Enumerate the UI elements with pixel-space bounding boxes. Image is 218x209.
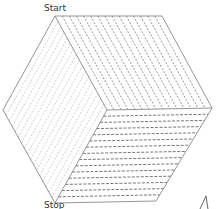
- start-label: Start: [44, 4, 66, 13]
- hexagon-outline: [3, 16, 212, 203]
- bottom-right-face-hatch: [58, 114, 208, 197]
- stop-label: Stop: [44, 201, 64, 209]
- hexagon-path-diagram: [0, 0, 218, 209]
- top-face-hatch: [62, 16, 205, 110]
- corner-mark: [200, 196, 208, 209]
- left-face-hatch: [6, 22, 104, 198]
